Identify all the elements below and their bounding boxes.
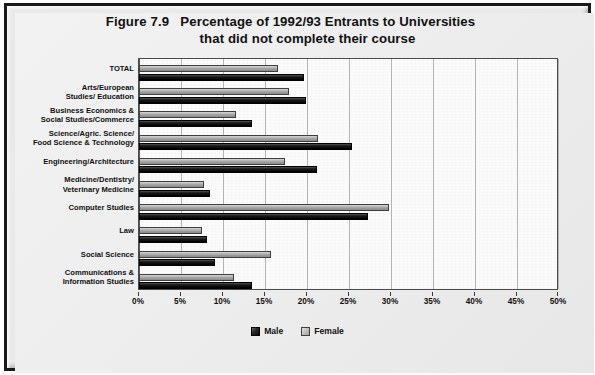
gridline (558, 59, 559, 289)
bar-male (139, 166, 317, 173)
axis-tick-label: 15% (256, 297, 272, 306)
bar-male (139, 190, 210, 197)
legend-swatch-female-icon (301, 327, 310, 336)
axis-tick-label: 25% (340, 297, 356, 306)
category-label: Law (0, 226, 134, 235)
axis-tick-mark (516, 292, 517, 296)
plot-area (138, 58, 558, 290)
axis-tick-label: 0% (132, 297, 144, 306)
category-label: Computer Studies (0, 203, 134, 212)
legend-item-female: Female (301, 326, 344, 336)
axis-tick-mark (264, 292, 265, 296)
axis-tick-label: 10% (214, 297, 230, 306)
bar-male (139, 259, 215, 266)
bar-female (139, 204, 389, 211)
bar-group (139, 245, 557, 268)
category-axis-labels: TOTALArts/European Studies/ EducationBus… (0, 58, 134, 290)
bar-group (139, 129, 557, 152)
figure-frame: Figure 7.9 Percentage of 1992/93 Entrant… (0, 0, 595, 375)
bar-female (139, 65, 278, 72)
bar-group (139, 175, 557, 198)
bar-group (139, 59, 557, 82)
category-label: Engineering/Architecture (0, 157, 134, 166)
axis-tick-label: 45% (508, 297, 524, 306)
category-label: Business Economics & Social Studies/Comm… (0, 106, 134, 124)
bar-female (139, 135, 318, 142)
axis-tick-label: 20% (298, 297, 314, 306)
bar-group (139, 105, 557, 128)
axis-tick-mark (306, 292, 307, 296)
legend-item-male: Male (251, 326, 283, 336)
bar-female (139, 181, 204, 188)
axis-tick-label: 35% (424, 297, 440, 306)
category-label: TOTAL (0, 64, 134, 73)
chart-title: Figure 7.9 Percentage of 1992/93 Entrant… (18, 13, 563, 47)
axis-tick-mark (138, 292, 139, 296)
bar-female (139, 274, 234, 281)
category-label: Communications & Information Studies (0, 268, 134, 286)
axis-tick-mark (390, 292, 391, 296)
category-label: Social Science (0, 250, 134, 259)
bar-group (139, 221, 557, 244)
bar-group (139, 198, 557, 221)
category-label: Arts/European Studies/ Education (0, 83, 134, 101)
bar-female (139, 158, 285, 165)
chart-title-line-1: Figure 7.9 Percentage of 1992/93 Entrant… (18, 13, 563, 30)
bar-group (139, 268, 557, 291)
bar-female (139, 111, 236, 118)
bar-male (139, 143, 352, 150)
axis-tick-mark (474, 292, 475, 296)
bar-male (139, 74, 304, 81)
bar-group (139, 82, 557, 105)
bar-male (139, 213, 368, 220)
legend-swatch-male-icon (251, 327, 260, 336)
bar-male (139, 236, 207, 243)
value-axis: 0%5%10%15%20%25%30%35%40%45%50% (138, 292, 558, 308)
chart-title-line-2: that did not complete their course (18, 30, 563, 47)
legend-label-female: Female (314, 326, 344, 336)
axis-tick-label: 40% (466, 297, 482, 306)
axis-tick-label: 50% (550, 297, 566, 306)
axis-tick-mark (557, 292, 558, 296)
axis-tick-mark (348, 292, 349, 296)
category-label: Science/Agric. Science/ Food Science & T… (0, 129, 134, 147)
axis-tick-mark (432, 292, 433, 296)
bar-male (139, 120, 252, 127)
bar-male (139, 282, 252, 289)
axis-tick-label: 30% (382, 297, 398, 306)
bar-female (139, 88, 289, 95)
axis-tick-mark (180, 292, 181, 296)
axis-tick-label: 5% (174, 297, 186, 306)
bar-female (139, 227, 202, 234)
bar-male (139, 97, 306, 104)
bar-group (139, 152, 557, 175)
category-label: Medicine/Dentistry/ Veterinary Medicine (0, 175, 134, 193)
axis-tick-mark (222, 292, 223, 296)
chart-legend: Male Female (0, 326, 595, 336)
legend-label-male: Male (264, 326, 283, 336)
bar-female (139, 251, 271, 258)
